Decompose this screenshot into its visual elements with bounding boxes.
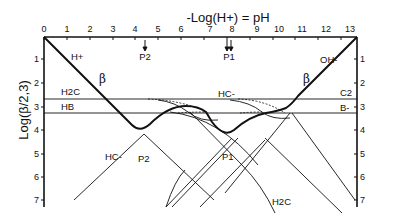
label-p2-bottom: P2 bbox=[138, 153, 150, 164]
svg-text:13: 13 bbox=[345, 24, 355, 34]
svg-text:1: 1 bbox=[360, 54, 365, 64]
x-tick-labels: 0 1 2 3 4 5 6 7 8 9 10 11 12 13 bbox=[41, 24, 355, 34]
svg-text:1: 1 bbox=[64, 24, 69, 34]
svg-text:1: 1 bbox=[34, 54, 39, 64]
label-h2c-left: H2C bbox=[61, 86, 80, 97]
p1-top-label: P1 bbox=[223, 51, 235, 62]
svg-text:2: 2 bbox=[34, 78, 39, 88]
svg-text:0: 0 bbox=[41, 24, 46, 34]
p2-top-label: P2 bbox=[139, 51, 151, 62]
p2-marker bbox=[143, 40, 147, 51]
svg-text:12: 12 bbox=[321, 24, 331, 34]
svg-text:7: 7 bbox=[360, 195, 365, 205]
transition-curves bbox=[158, 100, 290, 120]
svg-text:7: 7 bbox=[207, 24, 212, 34]
label-oh-minus: OH- bbox=[320, 54, 337, 65]
svg-text:6: 6 bbox=[360, 172, 365, 182]
svg-text:3: 3 bbox=[110, 24, 115, 34]
svg-text:3: 3 bbox=[34, 102, 39, 112]
svg-text:11: 11 bbox=[297, 24, 306, 34]
label-h2c-bottom: H2C bbox=[272, 196, 291, 207]
p1-marker bbox=[225, 40, 233, 51]
svg-text:5: 5 bbox=[155, 24, 160, 34]
label-p1-bottom: P1 bbox=[222, 151, 234, 162]
svg-text:5: 5 bbox=[360, 149, 365, 159]
svg-text:3: 3 bbox=[360, 102, 365, 112]
svg-text:6: 6 bbox=[178, 24, 183, 34]
svg-text:9: 9 bbox=[254, 24, 259, 34]
label-hc-minus-top: HC- bbox=[218, 88, 235, 99]
svg-text:4: 4 bbox=[132, 24, 137, 34]
label-beta-right: β bbox=[303, 72, 310, 86]
svg-text:2: 2 bbox=[87, 24, 92, 34]
label-beta-left: β bbox=[99, 72, 106, 86]
y-axis-label: Log(β/2,3) bbox=[16, 80, 31, 140]
asymptote-lines bbox=[74, 112, 355, 213]
y-tick-labels-left: 1 2 3 4 5 6 7 bbox=[34, 54, 39, 205]
y-tick-labels-right: 1 2 3 4 5 6 7 bbox=[360, 54, 365, 205]
svg-text:8: 8 bbox=[229, 24, 234, 34]
label-h-plus: H+ bbox=[71, 51, 84, 62]
svg-text:6: 6 bbox=[34, 172, 39, 182]
svg-text:5: 5 bbox=[34, 149, 39, 159]
label-hc-minus-bottom: HC- bbox=[105, 151, 122, 162]
label-b-minus: B- bbox=[340, 102, 350, 113]
titration-buffer-chart: -Log(H+) = pH 0 1 2 3 4 5 6 7 8 9 10 11 … bbox=[0, 0, 393, 224]
chart-title: -Log(H+) = pH bbox=[186, 10, 269, 25]
svg-text:2: 2 bbox=[360, 78, 365, 88]
label-c2: C2 bbox=[340, 87, 352, 98]
svg-text:7: 7 bbox=[34, 195, 39, 205]
svg-text:4: 4 bbox=[360, 125, 365, 135]
svg-text:10: 10 bbox=[274, 24, 284, 34]
label-hb: HB bbox=[61, 101, 74, 112]
svg-text:4: 4 bbox=[34, 125, 39, 135]
